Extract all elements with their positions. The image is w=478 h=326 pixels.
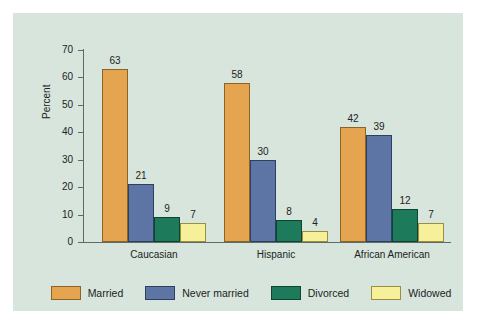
bar-value-label: 42	[347, 113, 358, 125]
x-axis-category-label: Caucasian	[130, 249, 177, 260]
bar-slot: 9	[154, 50, 180, 242]
bar-slot: 42	[340, 50, 366, 242]
bar-slot: 7	[418, 50, 444, 242]
bar-slot: 21	[128, 50, 154, 242]
plot-area: 6321975830844239127	[84, 50, 450, 242]
y-axis-tick-label: 10	[62, 208, 73, 221]
y-axis-tick: 70	[78, 50, 83, 51]
bar-value-label: 12	[399, 195, 410, 207]
bar[interactable]	[154, 217, 180, 242]
y-axis-tick: 50	[78, 105, 83, 106]
bar[interactable]	[366, 135, 392, 242]
legend-label: Divorced	[308, 287, 349, 299]
y-axis-tick: 10	[78, 215, 83, 216]
y-axis-tick-label: 30	[62, 153, 73, 166]
bar-slot: 58	[224, 50, 250, 242]
legend-item[interactable]: Widowed	[371, 286, 451, 300]
legend-swatch	[51, 286, 81, 300]
y-axis-title: Percent	[41, 85, 52, 119]
bar-group: 583084	[224, 50, 328, 242]
bar[interactable]	[392, 209, 418, 242]
y-axis-tick-label: 20	[62, 180, 73, 193]
bar-value-label: 8	[286, 206, 292, 218]
y-axis-tick-label: 60	[62, 70, 73, 83]
legend-label: Never married	[182, 287, 249, 299]
bar-slot: 39	[366, 50, 392, 242]
chart-panel: Percent 010203040506070 6321975830844239…	[13, 13, 463, 311]
bar-slot: 7	[180, 50, 206, 242]
bar[interactable]	[102, 69, 128, 242]
bar-value-label: 58	[231, 69, 242, 81]
x-axis-category-label: Hispanic	[257, 249, 295, 260]
bar[interactable]	[250, 160, 276, 242]
legend-label: Married	[88, 287, 124, 299]
x-axis	[83, 242, 451, 243]
bar[interactable]	[418, 223, 444, 242]
x-axis-category-label: African American	[354, 249, 430, 260]
y-axis-tick: 60	[78, 77, 83, 78]
chart-legend: MarriedNever marriedDivorcedWidowed	[26, 286, 476, 300]
legend-item[interactable]: Divorced	[271, 286, 349, 300]
bar-slot: 8	[276, 50, 302, 242]
bar-group: 632197	[102, 50, 206, 242]
y-axis-tick: 30	[78, 160, 83, 161]
y-axis-tick-label: 40	[62, 125, 73, 138]
bar[interactable]	[276, 220, 302, 242]
bar-value-label: 7	[190, 209, 196, 221]
bar[interactable]	[224, 83, 250, 242]
y-axis-tick-label: 70	[62, 43, 73, 56]
legend-item[interactable]: Married	[51, 286, 124, 300]
y-axis-tick-label: 0	[67, 235, 73, 248]
bar-value-label: 39	[373, 121, 384, 133]
y-axis-tick: 20	[78, 187, 83, 188]
bar[interactable]	[302, 231, 328, 242]
legend-label: Widowed	[408, 287, 451, 299]
y-axis-tick: 40	[78, 132, 83, 133]
bar[interactable]	[128, 184, 154, 242]
bar-slot: 63	[102, 50, 128, 242]
chart-figure: Percent 010203040506070 6321975830844239…	[0, 0, 478, 326]
bar-slot: 12	[392, 50, 418, 242]
bar-slot: 30	[250, 50, 276, 242]
legend-item[interactable]: Never married	[145, 286, 249, 300]
bar-value-label: 21	[135, 170, 146, 182]
legend-swatch	[371, 286, 401, 300]
bar-group: 4239127	[340, 50, 444, 242]
legend-swatch	[271, 286, 301, 300]
bar-value-label: 63	[109, 55, 120, 67]
bar-slot: 4	[302, 50, 328, 242]
bar-value-label: 4	[312, 217, 318, 229]
bar[interactable]	[340, 127, 366, 242]
bar-value-label: 30	[257, 146, 268, 158]
bar-value-label: 7	[428, 209, 434, 221]
bar-value-label: 9	[164, 203, 170, 215]
y-axis-tick-label: 50	[62, 98, 73, 111]
legend-swatch	[145, 286, 175, 300]
bar[interactable]	[180, 223, 206, 242]
